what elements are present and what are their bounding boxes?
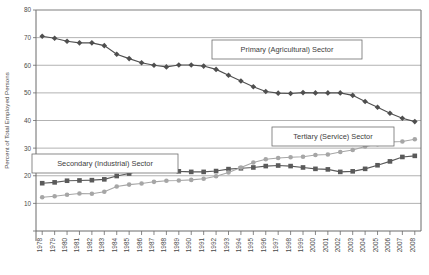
data-point xyxy=(213,67,219,73)
data-point xyxy=(139,181,144,186)
y-tick-label: 40 xyxy=(24,117,32,124)
data-point xyxy=(387,111,393,117)
data-point xyxy=(226,170,231,175)
data-point xyxy=(90,178,95,183)
data-point xyxy=(65,178,70,183)
data-point xyxy=(201,176,206,181)
data-point xyxy=(325,90,331,96)
data-point xyxy=(338,150,343,155)
data-point xyxy=(337,90,343,96)
y-tick-label: 30 xyxy=(24,145,32,152)
x-tick-label: 1998 xyxy=(285,238,292,253)
data-point xyxy=(139,60,145,66)
x-tick-label: 2008 xyxy=(409,238,416,253)
y-tick-label: 10 xyxy=(24,200,32,207)
data-point xyxy=(288,91,294,97)
x-tick-label: 1989 xyxy=(173,238,180,253)
x-tick-label: 1984 xyxy=(111,238,118,253)
data-point xyxy=(201,170,206,175)
data-point xyxy=(127,182,132,187)
data-point xyxy=(52,180,57,185)
data-point xyxy=(77,40,83,46)
x-tick-label: 1978 xyxy=(36,238,43,253)
data-point xyxy=(313,167,318,172)
data-point xyxy=(114,184,119,189)
x-tick-label: 1981 xyxy=(73,238,80,253)
data-point xyxy=(126,56,132,62)
data-point xyxy=(226,72,232,78)
data-point xyxy=(251,165,256,170)
data-point xyxy=(313,153,318,158)
data-point xyxy=(251,84,257,90)
data-point xyxy=(89,40,95,46)
data-point xyxy=(177,178,182,183)
data-point xyxy=(288,164,293,169)
data-point xyxy=(350,93,356,99)
data-point xyxy=(176,62,182,68)
data-point xyxy=(65,193,70,198)
data-point xyxy=(412,119,418,125)
x-tick-label: 1986 xyxy=(136,238,143,253)
x-tick-label: 1979 xyxy=(49,238,56,253)
x-tick-label: 1994 xyxy=(235,238,242,253)
data-point xyxy=(52,194,57,199)
y-tick-label: 70 xyxy=(24,34,32,41)
data-point xyxy=(251,160,256,165)
x-tick-label: 1983 xyxy=(98,238,105,253)
x-tick-label: 1988 xyxy=(160,238,167,253)
chart-container: 1020304050607080Percent of Total Employe… xyxy=(0,0,429,275)
data-point xyxy=(214,174,219,179)
data-point xyxy=(188,62,194,68)
x-tick-label: 1985 xyxy=(123,238,130,253)
data-point xyxy=(412,154,417,159)
x-tick-label: 2003 xyxy=(347,238,354,253)
y-axis-title: Percent of Total Employed Persons xyxy=(3,72,10,169)
data-point xyxy=(52,35,58,41)
x-tick-label: 2007 xyxy=(396,238,403,253)
data-point xyxy=(313,90,319,96)
data-point xyxy=(263,164,268,169)
data-point xyxy=(151,62,157,68)
x-tick-label: 2006 xyxy=(384,238,391,253)
y-tick-label: 60 xyxy=(24,62,32,69)
data-point xyxy=(375,163,380,168)
data-point xyxy=(375,104,381,110)
data-point xyxy=(40,181,45,186)
data-point xyxy=(301,165,306,170)
series-annotation-label: Secondary (Industrial) Sector xyxy=(57,159,153,168)
data-point xyxy=(388,159,393,164)
x-tick-label: 1980 xyxy=(61,238,68,253)
data-point xyxy=(90,191,95,196)
data-point xyxy=(263,157,268,162)
data-point xyxy=(152,180,157,185)
data-point xyxy=(263,89,269,95)
x-tick-label: 1987 xyxy=(148,238,155,253)
data-point xyxy=(64,38,70,44)
series-annotation-label: Tertiary (Service) Sector xyxy=(293,132,373,141)
x-tick-label: 1995 xyxy=(247,238,254,253)
x-tick-label: 1982 xyxy=(86,238,93,253)
x-tick-label: 1996 xyxy=(260,238,267,253)
x-tick-label: 2000 xyxy=(309,238,316,253)
data-point xyxy=(362,99,368,105)
data-point xyxy=(275,90,281,96)
data-point xyxy=(214,169,219,174)
data-point xyxy=(326,167,331,172)
data-point xyxy=(238,78,244,84)
data-point xyxy=(276,163,281,168)
data-point xyxy=(189,178,194,183)
data-point xyxy=(338,170,343,175)
data-point xyxy=(363,167,368,172)
x-tick-label: 2001 xyxy=(322,238,329,253)
x-tick-label: 1991 xyxy=(198,238,205,253)
x-tick-label: 1992 xyxy=(210,238,217,253)
data-point xyxy=(400,139,405,144)
data-point xyxy=(102,177,107,182)
data-point xyxy=(102,189,107,194)
employment-sector-line-chart: 1020304050607080Percent of Total Employe… xyxy=(0,0,429,275)
data-point xyxy=(39,33,45,39)
x-tick-label: 1990 xyxy=(185,238,192,253)
data-point xyxy=(114,174,119,179)
x-tick-label: 2002 xyxy=(334,238,341,253)
data-point xyxy=(189,170,194,175)
